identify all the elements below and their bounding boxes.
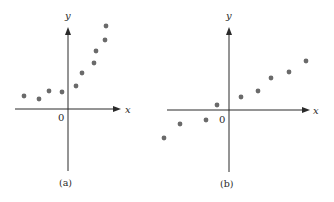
data-point xyxy=(215,103,220,108)
panel-b-caption: (b) xyxy=(220,178,234,189)
panel-b-y-label: y xyxy=(225,10,232,21)
data-point xyxy=(162,136,167,141)
panel-b-y-arrow-icon xyxy=(226,27,232,35)
panel-a-y-label: y xyxy=(64,10,71,21)
data-point xyxy=(22,94,27,99)
data-point xyxy=(204,118,209,123)
panel-b-points xyxy=(162,59,309,141)
panel-b-x-arrow-icon xyxy=(302,107,310,113)
data-point xyxy=(37,97,42,102)
panel-b-origin-label: 0 xyxy=(219,114,225,125)
panel-a-origin-label: 0 xyxy=(58,112,64,123)
panel-a-scatter-plot: x y 0 (a) xyxy=(15,10,131,188)
data-point xyxy=(74,84,79,89)
data-point xyxy=(80,71,85,76)
scatter-figure: x y 0 (a) x y 0 (b) xyxy=(0,0,334,202)
data-point xyxy=(178,122,183,127)
panel-b-scatter-plot: x y 0 (b) xyxy=(162,10,319,189)
panel-a-x-label: x xyxy=(125,104,131,115)
data-point xyxy=(256,89,261,94)
data-point xyxy=(287,70,292,75)
data-point xyxy=(60,90,65,95)
data-point xyxy=(269,76,274,81)
data-point xyxy=(103,38,108,43)
panel-a-points xyxy=(22,24,109,102)
data-point xyxy=(239,95,244,100)
data-point xyxy=(304,59,309,64)
data-point xyxy=(47,89,52,94)
panel-a-y-arrow-icon xyxy=(65,27,71,35)
data-point xyxy=(92,61,97,66)
data-point xyxy=(94,49,99,54)
panel-a-x-arrow-icon xyxy=(113,106,121,112)
panel-b-x-label: x xyxy=(313,105,319,116)
data-point xyxy=(104,24,109,29)
panel-a-caption: (a) xyxy=(59,177,72,188)
